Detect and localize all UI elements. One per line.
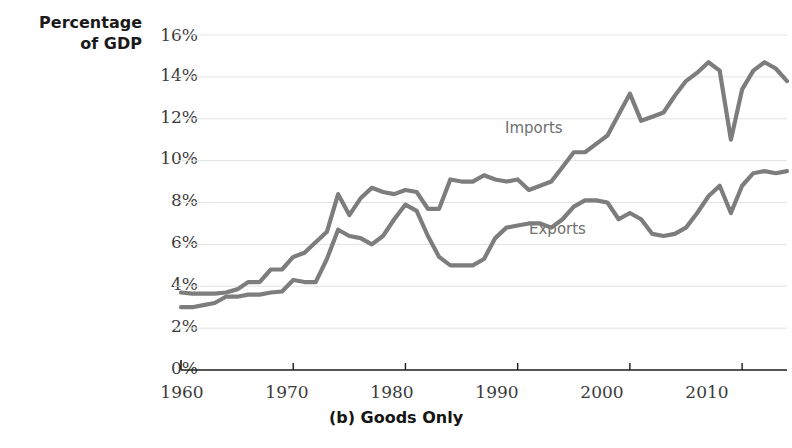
gridlines-group: [181, 35, 787, 328]
chart-plot-area: [0, 0, 792, 448]
chart-container: Percentage of GDP 16% 14% 12% 10% 8% 6% …: [0, 0, 792, 448]
series-line-exports: [181, 171, 787, 307]
series-paths-group: [181, 62, 787, 307]
axis-lines-group: [181, 360, 787, 370]
